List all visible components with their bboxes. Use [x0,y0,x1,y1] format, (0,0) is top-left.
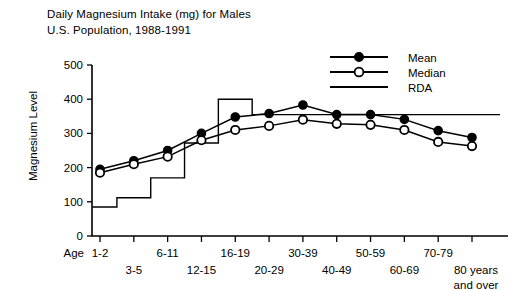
data-point-median [468,142,476,150]
x-tick-label: 80 years [454,264,498,276]
x-tick-label: 40-49 [322,264,351,276]
y-tick-label: 100 [64,196,83,208]
x-axis-label: Age [64,247,84,259]
series-line-median [100,120,472,173]
data-point-median [333,120,341,128]
data-point-median [400,126,408,134]
x-tick-label: 16-19 [221,247,250,259]
x-tick-label: 6-11 [157,247,179,259]
y-tick-label: 300 [64,127,83,139]
x-tick-label: 50-59 [356,247,385,259]
data-point-mean [366,110,374,118]
data-point-median [96,169,104,177]
x-tick-label: 30-39 [288,247,317,259]
legend-label: Median [408,67,446,79]
chart-plot-area: 0100200300400500Age1-23-56-1112-1516-192… [0,0,523,290]
data-point-median [197,136,205,144]
legend-marker-mean [355,53,364,62]
x-tick-label: 1-2 [92,247,109,259]
data-point-median [163,152,171,160]
legend-label: RDA [408,82,433,94]
legend-label: Mean [408,52,437,64]
y-tick-label: 0 [77,230,83,242]
data-point-mean [400,115,408,123]
y-tick-label: 400 [64,93,83,105]
rda-step-line [92,99,500,207]
data-point-mean [434,126,442,134]
data-point-median [434,138,442,146]
data-point-median [130,160,138,168]
data-point-mean [299,101,307,109]
y-tick-label: 200 [64,162,83,174]
data-point-median [265,122,273,130]
y-tick-label: 500 [64,59,83,71]
x-tick-label: 70-79 [423,247,452,259]
data-point-median [299,116,307,124]
x-tick-label: and over [454,279,499,290]
x-tick-label: 20-29 [254,264,283,276]
legend-marker-median [355,68,364,77]
data-point-median [366,121,374,129]
data-point-mean [333,110,341,118]
data-point-median [231,126,239,134]
data-point-mean [468,133,476,141]
x-tick-label: 60-69 [390,264,419,276]
data-point-mean [265,109,273,117]
x-tick-label: 3-5 [126,264,143,276]
x-tick-label: 12-15 [187,264,216,276]
data-point-mean [231,113,239,121]
axis-lines [92,65,508,236]
chart-figure: Daily Magnesium Intake (mg) for Males U.… [0,0,523,290]
